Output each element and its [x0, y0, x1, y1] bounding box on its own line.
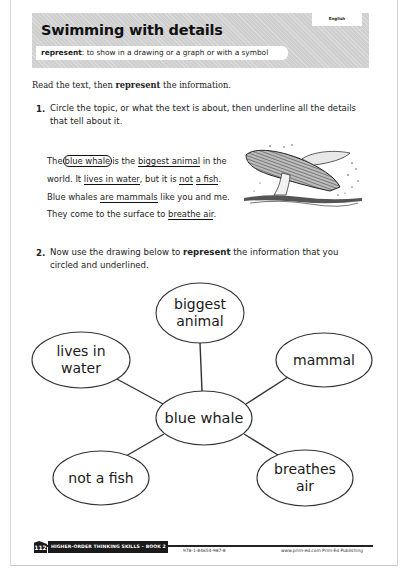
node-label-left: lives in water: [32, 332, 130, 388]
node-text: lives in: [56, 343, 105, 360]
circled-topic: blue whale: [63, 155, 113, 167]
node-text: blue whale: [165, 410, 244, 427]
node-label-top: biggest animal: [156, 284, 244, 342]
q2-suffix: the information that you: [231, 247, 339, 257]
reading-passage: Theblue whaleis the biggest animal in th…: [47, 153, 232, 224]
subject-tab: English: [312, 12, 362, 26]
whale-illustration-icon: [240, 143, 365, 211]
instruction-suffix: the information.: [160, 80, 231, 90]
node-text: water: [61, 360, 101, 377]
passage-text: , but it is: [140, 174, 180, 184]
vocab-term: represent: [41, 48, 82, 57]
vocab-definition: : to show in a drawing or a graph or wit…: [82, 48, 268, 57]
isbn: 978-1-84654-987-8: [183, 545, 226, 557]
page-title: Swimming with details: [41, 22, 223, 38]
vocabulary-definition: represent: to show in a drawing or a gra…: [36, 46, 288, 60]
node-text: air: [296, 478, 314, 495]
node-text: mammal: [293, 352, 355, 369]
q2-bold: represent: [183, 247, 230, 257]
question-1-number: 1.: [36, 104, 45, 114]
underlined-detail: a fish: [196, 174, 219, 185]
underlined-detail: breathe air: [168, 209, 213, 220]
node-label-center: blue whale: [156, 391, 252, 445]
node-text: biggest: [174, 296, 226, 313]
question-2-text: Now use the drawing below to represent t…: [50, 246, 338, 272]
question-1-text: Circle the topic, or what the text is ab…: [50, 102, 356, 128]
node-text: animal: [176, 313, 223, 330]
publisher-info: www.prim-ed.com Prim-Ed Publishing: [281, 545, 363, 557]
question-1-line2: that tell about it.: [50, 115, 356, 128]
node-text: breathes: [274, 461, 336, 478]
passage-text: The: [47, 156, 63, 166]
node-text: not a fish: [68, 470, 133, 487]
instruction-prefix: Read the text, then: [32, 80, 115, 90]
node-label-right: mammal: [276, 333, 372, 387]
question-2-number: 2.: [36, 248, 45, 258]
underlined-detail: lives in water: [84, 174, 140, 185]
question-1-line1: Circle the topic, or what the text is ab…: [50, 102, 356, 115]
instruction-bold: represent: [115, 80, 160, 90]
underlined-detail: not: [179, 174, 193, 185]
book-title: HIGHER-ORDER THINKING SKILLS – BOOK 2: [48, 541, 168, 553]
passage-text: .: [213, 209, 216, 219]
q2-prefix: Now use the drawing below to: [50, 247, 183, 257]
passage-text: is the: [112, 156, 138, 166]
question-2-line1: Now use the drawing below to represent t…: [50, 246, 338, 259]
node-label-bottom-left: not a fish: [53, 451, 149, 505]
underlined-detail: are mammals: [100, 192, 158, 203]
node-label-bottom-right: breathes air: [257, 450, 353, 506]
question-2-line2: circled and underlined.: [50, 259, 338, 272]
underlined-detail: biggest animal: [138, 156, 200, 167]
instruction: Read the text, then represent the inform…: [32, 80, 231, 90]
